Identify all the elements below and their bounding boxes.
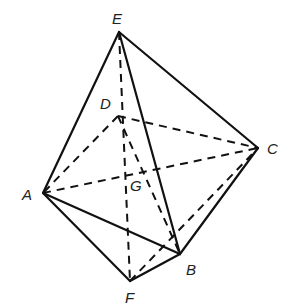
edge-EC	[119, 32, 258, 148]
edge-DA-dashed	[43, 116, 118, 193]
edge-EA	[43, 32, 119, 193]
edge-DC-dashed	[118, 116, 258, 148]
diagram-canvas	[0, 0, 289, 308]
edge-AB	[43, 193, 180, 254]
label-B: B	[186, 262, 196, 277]
edge-FB	[130, 254, 180, 281]
label-A: A	[22, 187, 32, 202]
label-F: F	[125, 290, 134, 305]
label-G: G	[130, 178, 142, 193]
edge-BC	[180, 148, 258, 254]
label-D: D	[100, 96, 111, 111]
label-E: E	[112, 11, 122, 26]
edge-AF	[43, 193, 130, 281]
label-C: C	[267, 141, 278, 156]
